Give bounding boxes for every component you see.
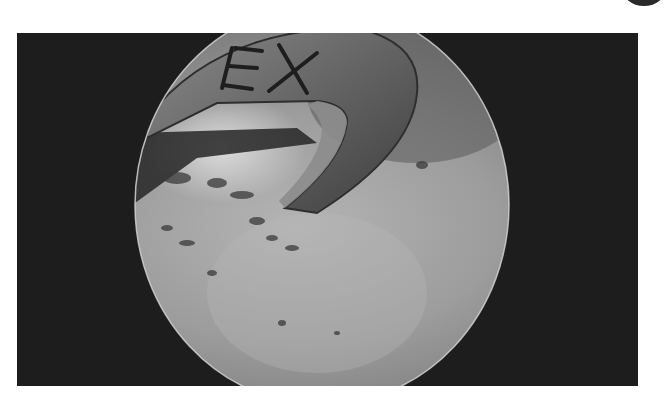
corner-dark-shape [622, 0, 665, 6]
arthroscopic-image [17, 33, 638, 386]
scope-view [17, 33, 638, 386]
arthroscopy-frame: Arthroscopic view of a joint with a curv… [17, 33, 638, 386]
